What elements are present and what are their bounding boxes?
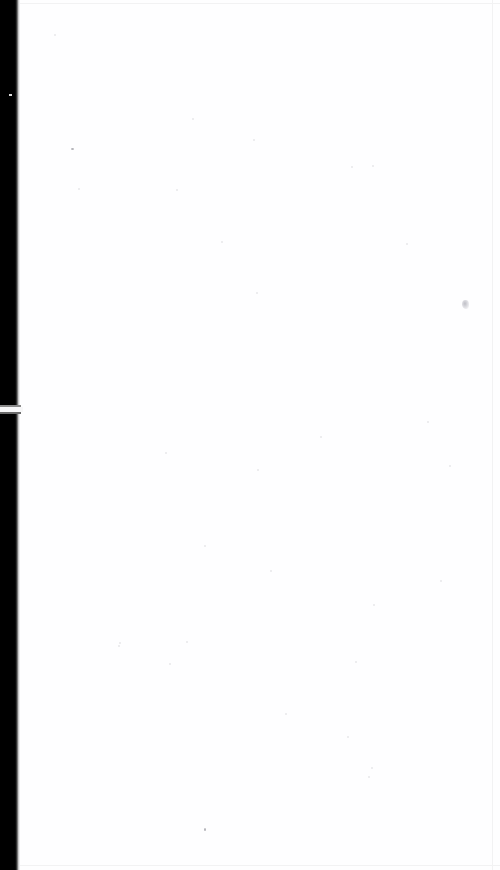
scanned-page bbox=[0, 0, 500, 870]
scan-gutter-edge-rule bbox=[19, 0, 20, 870]
page-right-edge-rule bbox=[492, 0, 493, 870]
page-body-text bbox=[34, 26, 474, 846]
gutter-light-break-bottom-falloff bbox=[0, 412, 21, 414]
gutter-edge-nick bbox=[9, 94, 12, 96]
page-bottom-edge-rule bbox=[17, 865, 500, 866]
page-top-edge-rule bbox=[17, 3, 500, 4]
